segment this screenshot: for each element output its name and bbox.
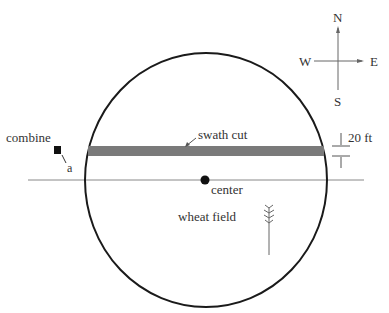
diagram-canvas	[0, 0, 389, 313]
width-label: 20 ft	[348, 131, 372, 144]
field-label: wheat field	[178, 210, 236, 223]
center-dot	[201, 176, 210, 185]
center-label: center	[211, 183, 243, 196]
combine-point-label: a	[67, 162, 72, 174]
compass-east: E	[370, 55, 378, 68]
swath-label: swath cut	[198, 128, 247, 141]
compass-north: N	[333, 11, 342, 24]
combine-icon	[54, 146, 61, 154]
compass-west: W	[299, 55, 311, 68]
swath-cut	[88, 146, 324, 156]
combine-leader	[62, 155, 66, 163]
compass-south: S	[334, 95, 341, 108]
wheat-icon	[264, 205, 274, 255]
north-arrow-icon	[336, 26, 340, 33]
combine-label: combine	[6, 131, 51, 144]
east-arrow-icon	[357, 59, 364, 63]
